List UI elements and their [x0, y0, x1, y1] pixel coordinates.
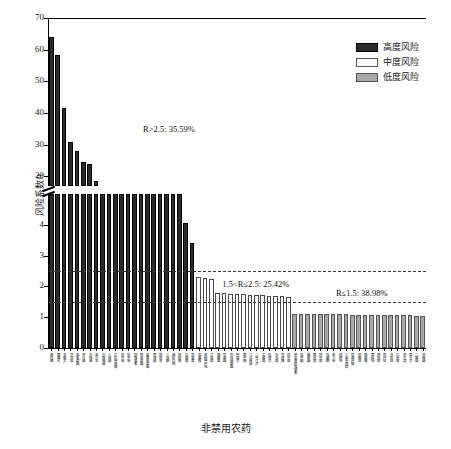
x-axis-tick-label: 联苯菊酯	[139, 353, 143, 365]
x-axis-tick-label: 氯氰菊酯	[75, 353, 79, 365]
x-axis-tick-label: 除虫脲	[318, 353, 322, 362]
x-axis-tick-label: 克百威	[68, 353, 72, 362]
x-axis-tick-label: 霜霉威	[216, 353, 220, 362]
legend-label-high-risk: 高度风险	[383, 43, 419, 52]
x-axis-tick-label: 烯酰吗啉	[171, 353, 175, 365]
x-axis-tick-label: 嘧霉胺	[197, 353, 201, 362]
axis-spine	[48, 348, 426, 349]
x-axis-tick-label: 虫螨腈	[280, 353, 284, 362]
x-axis-tick-label: 腐霉利	[56, 353, 60, 362]
x-axis-tick-label: 氯氟氰菊酯	[145, 353, 149, 368]
x-axis-tick-label: 炔螨特	[338, 353, 342, 362]
axis-spine	[48, 194, 49, 348]
legend-swatch-medium-risk	[356, 58, 378, 67]
x-axis-tick-label: 异菌脲	[184, 353, 188, 362]
legend-item-low: 低度风险	[356, 71, 419, 84]
legend-label-low-risk: 低度风险	[383, 73, 419, 82]
x-axis-tick-label: 倍硫磷	[421, 353, 425, 362]
x-axis-tick-label: 马拉硫磷	[248, 353, 252, 365]
x-axis-tick-label: 哒螨灵	[267, 353, 271, 362]
x-axis-tick-label: 戊唑醇	[209, 353, 213, 362]
x-axis-tick-label: 甲霜灵	[235, 353, 239, 362]
x-axis-tick-label: 莠去津	[402, 353, 406, 362]
x-axis-tick-label: 二甲戊灵	[254, 353, 258, 365]
x-axis-label: 非禁用农药	[0, 420, 451, 435]
x-axis-tick-label: 丙环唑	[382, 353, 386, 362]
x-axis-tick-label: 水胺硫磷	[100, 353, 104, 365]
legend-label-medium-risk: 中度风险	[383, 58, 419, 67]
x-axis-tick-label: 三唑磷	[107, 353, 111, 362]
x-axis-tick-label: 吡虫啉	[126, 353, 130, 362]
axis-spine	[48, 18, 49, 186]
x-axis-tick-label: 乙草胺	[395, 353, 399, 362]
x-axis-tick-label: 乙酰甲胺磷	[113, 353, 117, 368]
legend-item-mid: 中度风险	[356, 56, 419, 69]
x-axis-tick-label: 百菌清	[190, 353, 194, 362]
risk-coefficient-bar-chart: 风险系数R 203040506070 01234 R>2.5: 35.59%1.…	[0, 0, 451, 449]
x-axis-tick-label: 苯醚甲环唑	[203, 353, 207, 368]
x-axis: 毒死蜱腐霉利多菌灵克百威氯氰菊酯甲拌磷辛硫磷氧乐果水胺硫磷三唑磷乙酰甲胺磷啶虫脒…	[48, 348, 426, 418]
x-axis-tick-label: 多效唑	[389, 353, 393, 362]
x-axis-tick-label: 甲拌磷	[81, 353, 85, 362]
x-axis-tick-label: 丙溴磷	[152, 353, 156, 362]
x-axis-tick-label: 阿维菌素	[132, 353, 136, 365]
x-axis-tick-label: 嘧菌酯	[222, 353, 226, 362]
x-axis-tick-label: 吡唑醚菌酯	[229, 353, 233, 368]
legend: 高度风险 中度风险 低度风险	[356, 41, 419, 86]
x-axis-tick-label: 氟硅唑	[370, 353, 374, 362]
x-axis-tick-label: 氟啶脲	[312, 353, 316, 362]
x-axis-tick-label: 氟乐灵	[408, 353, 412, 362]
legend-item-high: 高度风险	[356, 41, 419, 54]
x-axis-tick-label: 三唑酮	[165, 353, 169, 362]
annotation-text: R>2.5: 35.59%	[143, 124, 195, 134]
x-axis-tick-label: 灭多威	[273, 353, 277, 362]
x-axis-tick-label: 多菌灵	[62, 353, 66, 362]
x-axis-tick-label: 茚虫威	[286, 353, 290, 362]
x-axis-tick-label: 二嗪磷	[414, 353, 418, 362]
axis-spine	[48, 18, 426, 19]
x-axis-tick-label: 三氯杀螨醇	[344, 353, 348, 368]
x-axis-tick-label: 辛硫磷	[88, 353, 92, 362]
x-axis-tick-label: 噻嗪酮	[325, 353, 329, 362]
x-axis-tick-label: 嘧菌环胺	[350, 353, 354, 365]
x-axis-tick-label: 氟虫腈	[241, 353, 245, 362]
x-axis-tick-label: 咪鲜胺	[177, 353, 181, 362]
x-axis-tick-label: 抑霉唑	[357, 353, 361, 362]
x-axis-tick-label: 烯唑醇	[376, 353, 380, 362]
x-axis-tick-label: 苯丁锡	[331, 353, 335, 362]
x-axis-tick-label: 乙霉威	[261, 353, 265, 362]
x-axis-tick-label: 毒死蜱	[49, 353, 53, 362]
x-axis-tick-label: 甲氨基阿维菌素	[293, 353, 297, 374]
legend-swatch-low-risk	[356, 73, 378, 82]
legend-swatch-high-risk	[356, 43, 378, 52]
x-axis-tick-label: 螺螨酯	[305, 353, 309, 362]
x-axis-tick-label: 噻虫嗪	[299, 353, 303, 362]
annotation-text: R≤1.5: 38.98%	[336, 288, 388, 298]
x-axis-tick-label: 啶虫脒	[120, 353, 124, 362]
annotation-text: 1.5<R≤2.5: 25.42%	[222, 279, 289, 289]
x-axis-tick-label: 氧乐果	[94, 353, 98, 362]
x-axis-tick-label: 敌敌畏	[158, 353, 162, 362]
x-axis-tick-label: 咯菌腈	[363, 353, 367, 362]
